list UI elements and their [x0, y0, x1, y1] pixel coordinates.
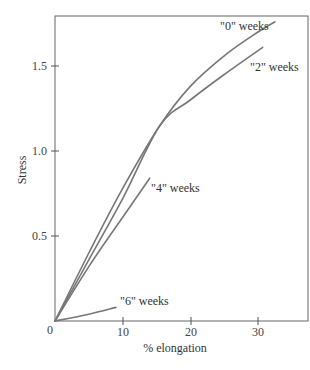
x-axis: 0 10 20 30 % elongation: [47, 317, 264, 355]
y-axis: 0.5 1.0 1.5 Stress: [15, 59, 59, 243]
label-2-weeks: "2" weeks: [250, 60, 299, 74]
stress-elongation-chart: 0.5 1.0 1.5 Stress 0 10 20 30 % elongati…: [0, 0, 310, 370]
label-4-weeks: "4" weeks: [151, 181, 200, 195]
x-tick-label: 20: [185, 325, 197, 339]
y-tick-label: 0.5: [32, 229, 47, 243]
curve-6-weeks: [55, 307, 116, 321]
label-6-weeks: "6" weeks: [120, 294, 169, 308]
label-0-weeks: "0" weeks: [220, 19, 269, 33]
x-tick-label: 10: [117, 325, 129, 339]
x-axis-label: % elongation: [143, 341, 207, 355]
y-tick-label: 1.5: [32, 59, 47, 73]
curve-0-weeks: [55, 22, 275, 321]
origin-label: 0: [47, 323, 53, 337]
curves: [55, 22, 275, 321]
x-tick-label: 30: [252, 325, 264, 339]
series-labels: "0" weeks "2" weeks "4" weeks "6" weeks: [120, 19, 299, 308]
y-axis-label: Stress: [15, 155, 29, 184]
y-tick-label: 1.0: [32, 144, 47, 158]
